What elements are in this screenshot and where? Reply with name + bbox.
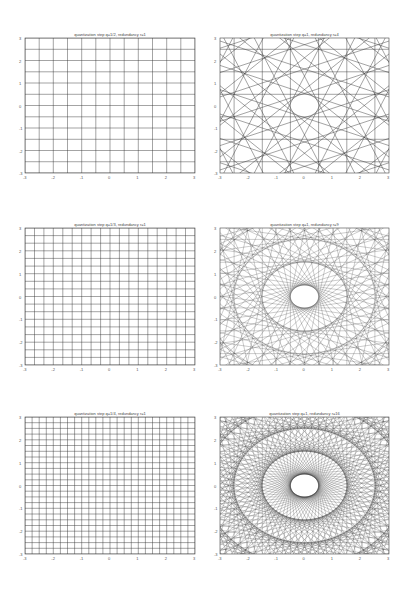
plot-area: [220, 417, 389, 554]
y-tick-label: 2: [214, 249, 216, 254]
x-tick-label: -1: [274, 556, 278, 561]
x-tick-label: 0: [303, 556, 305, 561]
x-tick-label: 0: [303, 175, 305, 180]
y-tick-label: 1: [19, 272, 21, 277]
x-tick-label: -2: [246, 556, 250, 561]
x-tick-label: 1: [136, 367, 138, 372]
y-tick-label: -3: [214, 363, 218, 368]
x-tick-label: 2: [165, 367, 167, 372]
x-tick-label: -1: [274, 367, 278, 372]
x-tick-label: -2: [246, 175, 250, 180]
x-tick-label: -2: [51, 175, 55, 180]
x-tick-label: 3: [387, 175, 389, 180]
y-tick-label: 2: [214, 59, 216, 64]
y-tick-label: -1: [19, 317, 23, 322]
x-tick-label: -2: [51, 556, 55, 561]
y-tick-label: -3: [214, 552, 218, 557]
x-tick-label: 3: [193, 556, 195, 561]
y-tick-label: -1: [19, 506, 23, 511]
x-tick-label: 3: [193, 367, 195, 372]
x-tick-label: -2: [51, 367, 55, 372]
y-tick-label: 2: [19, 59, 21, 64]
x-tick-label: 3: [193, 175, 195, 180]
x-tick-label: -1: [80, 367, 84, 372]
x-tick-label: 0: [108, 367, 110, 372]
y-tick-label: 0: [214, 295, 216, 300]
x-tick-label: 0: [108, 556, 110, 561]
y-tick-label: 1: [214, 81, 216, 86]
axes-frame: [220, 228, 389, 365]
y-tick-label: 2: [19, 249, 21, 254]
plot-title: quantization step q=1/4, redundancy r=1: [74, 411, 146, 416]
y-tick-label: 1: [19, 81, 21, 86]
y-tick-label: -2: [19, 529, 23, 534]
y-tick-label: -1: [19, 126, 23, 131]
x-tick-label: 1: [331, 556, 333, 561]
y-tick-label: -2: [19, 340, 23, 345]
x-tick-label: 1: [331, 367, 333, 372]
plot-title: quantization step q=1/3, redundancy r=1: [74, 222, 146, 227]
y-tick-label: 0: [19, 484, 21, 489]
x-tick-label: 2: [359, 367, 361, 372]
axes-frame: [220, 417, 389, 554]
y-tick-label: 2: [19, 438, 21, 443]
y-tick-label: -1: [214, 126, 218, 131]
y-tick-label: -3: [19, 363, 23, 368]
y-tick-label: -3: [214, 171, 218, 176]
x-tick-label: -2: [246, 367, 250, 372]
y-tick-label: -2: [214, 149, 218, 154]
x-tick-label: -1: [80, 175, 84, 180]
x-tick-label: 0: [108, 175, 110, 180]
x-tick-label: -1: [274, 175, 278, 180]
plot-title: quantization step q=1, redundancy r=16: [269, 411, 340, 416]
x-tick-label: 1: [136, 175, 138, 180]
plot-title: quantization step q=1, redundancy r=9: [270, 222, 338, 227]
y-tick-label: -2: [214, 340, 218, 345]
y-tick-label: 2: [214, 438, 216, 443]
plot-area: [220, 228, 389, 365]
x-tick-label: 1: [136, 556, 138, 561]
plot-area: [25, 417, 195, 554]
x-tick-label: 2: [359, 175, 361, 180]
y-tick-label: 0: [214, 484, 216, 489]
x-tick-label: -3: [23, 367, 27, 372]
y-tick-label: -1: [214, 317, 218, 322]
y-tick-label: 0: [19, 295, 21, 300]
y-tick-label: 3: [214, 226, 216, 231]
y-tick-label: 3: [19, 415, 21, 420]
x-tick-label: -3: [218, 175, 222, 180]
x-tick-label: -3: [218, 367, 222, 372]
axes-frame: [220, 38, 389, 173]
y-tick-label: -3: [19, 552, 23, 557]
y-tick-label: 0: [214, 104, 216, 109]
y-tick-label: 0: [19, 104, 21, 109]
plot-area: [25, 228, 195, 365]
plot-area: [220, 38, 389, 173]
x-tick-label: 2: [165, 556, 167, 561]
x-tick-label: 2: [165, 175, 167, 180]
y-tick-label: 1: [214, 272, 216, 277]
y-tick-label: -2: [19, 149, 23, 154]
x-tick-label: 3: [387, 367, 389, 372]
y-tick-label: -2: [214, 529, 218, 534]
x-tick-label: -3: [23, 175, 27, 180]
y-tick-label: 1: [214, 461, 216, 466]
x-tick-label: -3: [23, 556, 27, 561]
x-tick-label: -1: [80, 556, 84, 561]
y-tick-label: 3: [19, 226, 21, 231]
y-tick-label: -1: [214, 506, 218, 511]
plot-title: quantization step q=1, redundancy r=4: [270, 32, 338, 37]
y-tick-label: 3: [214, 415, 216, 420]
y-tick-label: -3: [19, 171, 23, 176]
y-tick-label: 1: [19, 461, 21, 466]
x-tick-label: 2: [359, 556, 361, 561]
y-tick-label: 3: [19, 36, 21, 41]
x-tick-label: 1: [331, 175, 333, 180]
x-tick-label: -3: [218, 556, 222, 561]
plot-title: quantization step q=1/2, redundancy r=1: [74, 32, 146, 37]
plot-area: [25, 38, 195, 173]
x-tick-label: 0: [303, 367, 305, 372]
x-tick-label: 3: [387, 556, 389, 561]
y-tick-label: 3: [214, 36, 216, 41]
